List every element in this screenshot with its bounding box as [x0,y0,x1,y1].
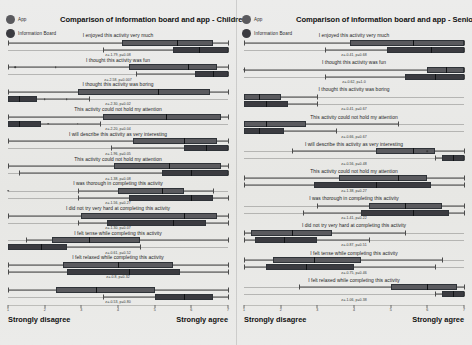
whisker-cap-min [8,65,9,70]
whisker-cap-min [299,285,300,290]
box-iqr [391,284,457,290]
outlier-point [55,66,57,68]
whisker-cap-max [464,285,465,290]
whisker-cap-min [317,203,318,208]
median-line [453,155,454,161]
box-iqr [244,94,281,100]
whisker-cap-max [464,203,465,208]
question-group: This activity could not hold my attentio… [8,107,228,132]
box-plot-pair [8,212,228,226]
box-plot-pair [244,175,464,189]
whisker-cap-max [317,101,318,106]
box-plot-row [8,261,228,268]
box-plot-row [244,128,464,135]
box-plot-row [244,148,464,155]
question-group: I felt relaxed while completing this act… [8,255,228,280]
box-plot-pair [8,113,228,127]
box-iqr [129,195,213,201]
panel-seniors: App Information Board Comparison of info… [236,0,472,345]
box-plot-pair [244,66,464,80]
median-line [453,291,454,297]
box-plot-pair [244,229,464,243]
box-plot-row [8,120,228,127]
whisker-cap-min [78,195,79,200]
x-axis-seniors: Strongly disagree Strongly agree 1234567 [244,305,464,339]
box-plot-row [8,64,228,71]
whisker-cap-max [464,210,465,215]
whisker-cap-min [19,171,20,176]
box-plot-row [244,121,464,128]
box-plot-row [8,268,228,275]
median-line [162,188,163,194]
statistic-annotation: z=-0.41, p=0.68 [244,53,464,58]
axis-tick-label: 4 [117,308,119,312]
median-line [177,40,178,46]
median-line [376,182,377,188]
whisker-cap-min [244,230,245,235]
median-line [259,128,260,134]
median-line [191,170,192,176]
outlier-point [77,123,79,125]
axis-tick-label: 3 [316,308,318,312]
whisker-cap-min [435,292,436,297]
whisker-cap-max [228,269,229,274]
box-plot-pair [8,163,228,177]
whisker-cap-max [405,230,406,235]
legend-swatch-app [6,15,15,24]
box-plot-pair [244,93,464,107]
box-plot-pair [244,121,464,135]
legend-label-app: App [18,17,26,22]
statistic-annotation: z=-0.87, p=0.51 [244,243,464,248]
whisker-cap-min [8,164,9,169]
box-plot-row [8,244,228,251]
whisker-cap-max [435,265,436,270]
question-group: I felt tense while completing this activ… [8,231,228,256]
box-iqr [339,175,427,181]
axis-tick-label: 7 [463,308,465,312]
whisker-cap-max [228,146,229,151]
box-plot-pair [8,64,228,78]
outlier-point [66,98,68,100]
box-iqr [52,237,140,243]
outlier-point [7,190,9,192]
median-line [184,138,185,144]
box-plot-row [8,163,228,170]
whisker-cap-max [140,245,141,250]
whisker-cap-min [325,74,326,79]
statistic-annotation: z=-0.56, p=0.48 [244,162,464,167]
whisker-cap-min [103,47,104,52]
question-group: z=-0.53, p=0.80 [8,280,228,305]
axis-tick-label: 6 [190,308,192,312]
whisker-cap-max [89,96,90,101]
median-line [191,195,192,201]
median-line [199,47,200,53]
box-plot-row [244,46,464,53]
box-plot-row [8,212,228,219]
question-group: I did not try very hard at completing th… [244,223,464,250]
median-line [96,287,97,293]
whisker-cap-max [228,171,229,176]
x-axis-children: Strongly disagree Strongly agree 1234567 [8,305,228,339]
question-group: This activity could not hold my attentio… [8,157,228,182]
whisker-cap-min [244,183,245,188]
box-plot-row [8,71,228,78]
whisker-cap-min [244,40,245,45]
axis-tick-label: 7 [227,308,229,312]
median-line [446,67,447,73]
median-line [173,220,174,226]
whisker-cap-max [464,40,465,45]
median-line [213,71,214,77]
whisker-cap-min [103,294,104,299]
question-group: I thought this activity was boringz=-0.4… [244,87,464,114]
question-group: This activity could not hold my attentio… [244,169,464,196]
box-plot-row [244,257,464,264]
whisker-cap-max [464,292,465,297]
box-plot-row [8,170,228,177]
box-iqr [273,257,361,263]
panel-title-children: Comparison of information board and app … [60,15,232,24]
box-iqr [173,47,228,53]
whisker-cap-min [8,139,9,144]
whisker-cap-max [228,139,229,144]
box-iqr [8,244,67,250]
axis-tick-label: 3 [80,308,82,312]
